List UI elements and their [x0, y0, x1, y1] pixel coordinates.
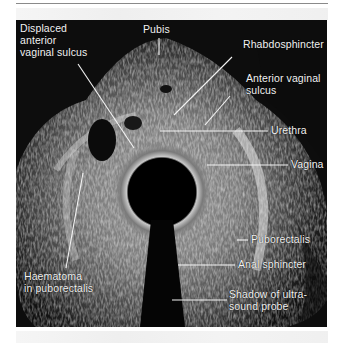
label-pubis: Pubis	[143, 23, 170, 35]
label-rhabdosphincter: Rhabdosphincter	[243, 38, 324, 50]
bleed-through-text-bottom	[16, 331, 328, 343]
bleed-through-text-top	[16, 8, 328, 20]
top-rule	[16, 3, 328, 4]
label-vagina: Vagina	[291, 158, 324, 170]
label-shadow-of-ultrasound-probe: Shadow of ultra- sound probe	[229, 288, 307, 312]
label-urethra: Urethra	[271, 124, 307, 136]
label-anterior-vaginal-sulcus: Anterior vaginal sulcus	[246, 72, 321, 96]
label-puborectalis: Puborectalis	[251, 233, 310, 245]
label-displaced-anterior-vaginal-sulcus: Displaced anterior vaginal sulcus	[20, 22, 87, 58]
label-haematoma-in-puborectalis: Haematoma in puborectalis	[24, 270, 93, 294]
ultrasound-image: Displaced anterior vaginal sulcus Pubis …	[16, 20, 327, 327]
label-anal-sphincter: Anal sphincter	[238, 258, 306, 270]
